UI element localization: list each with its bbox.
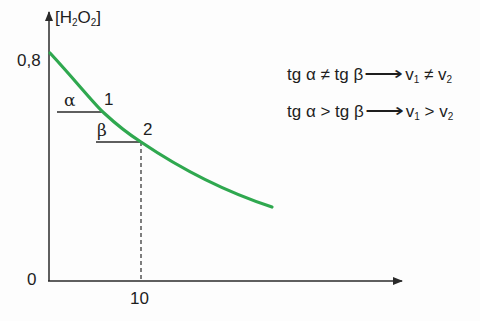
chart-figure: [H2O2] 0,8 0 10 α 1 β 2 tg α ≠ tg β⟶v1 ≠…	[0, 0, 480, 321]
point-2-label: 2	[143, 121, 152, 138]
y-tick-top: 0,8	[17, 52, 41, 69]
equation-1: tg α ≠ tg β⟶v1 ≠ v2	[287, 66, 452, 85]
x-tick-10: 10	[130, 290, 149, 307]
equation-2: tg α > tg β⟶v1 > v2	[287, 103, 453, 122]
origin-label: 0	[27, 271, 36, 288]
point-1-label: 1	[104, 91, 113, 108]
y-axis-label: [H2O2]	[55, 9, 101, 28]
alpha-label: α	[64, 92, 75, 109]
chart-svg	[0, 0, 480, 321]
concentration-curve	[50, 53, 272, 207]
beta-label: β	[97, 122, 107, 139]
